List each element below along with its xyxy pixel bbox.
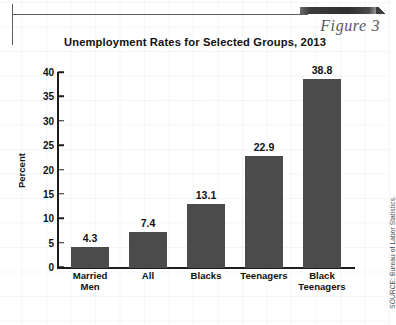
y-tick-label: 5 xyxy=(28,237,54,248)
y-tick-label: 25 xyxy=(28,140,54,151)
figure-label: Figure 3 xyxy=(320,17,380,35)
x-category-label-line: Married xyxy=(73,270,108,281)
bar-group[interactable]: 22.9Teenagers xyxy=(235,60,293,268)
bar-value-label: 38.8 xyxy=(293,64,351,76)
y-axis-tick-labels: 0510152025303540 xyxy=(26,60,54,275)
x-category-label-line: Teenagers xyxy=(298,281,345,292)
x-category-label: BlackTeenagers xyxy=(293,271,351,292)
bar[interactable] xyxy=(245,156,283,268)
source-note: SOURCE: Bureau of Labor Statistics. xyxy=(389,196,396,309)
bar-value-label: 7.4 xyxy=(119,217,177,229)
y-tick-label: 35 xyxy=(28,91,54,102)
x-category-label-line: Black xyxy=(309,270,335,281)
chart-plot-area: Percent 0510152025303540 4.3MarriedMen7.… xyxy=(0,60,390,325)
x-category-label-line: All xyxy=(142,270,154,281)
bar-group[interactable]: 13.1Blacks xyxy=(177,60,235,268)
bar-value-label: 13.1 xyxy=(177,189,235,201)
y-tick-label: 10 xyxy=(28,213,54,224)
x-category-label: All xyxy=(119,271,177,282)
bar-value-label: 4.3 xyxy=(61,232,119,244)
y-tick-label: 0 xyxy=(28,262,54,273)
decorative-horizontal-rule xyxy=(12,14,308,15)
bar-value-label: 22.9 xyxy=(235,141,293,153)
bar-group[interactable]: 4.3MarriedMen xyxy=(61,60,119,268)
x-category-label-line: Men xyxy=(80,281,99,292)
bar-group[interactable]: 38.8BlackTeenagers xyxy=(293,60,351,268)
bar-group[interactable]: 7.4All xyxy=(119,60,177,268)
x-category-label-line: Blacks xyxy=(191,270,222,281)
y-tick-label: 20 xyxy=(28,164,54,175)
y-tick-label: 30 xyxy=(28,115,54,126)
chart-title: Unemployment Rates for Selected Groups, … xyxy=(0,36,390,48)
bar-series: 4.3MarriedMen7.4All13.1Blacks22.9Teenage… xyxy=(57,60,355,268)
y-tick-label: 40 xyxy=(28,67,54,78)
bar[interactable] xyxy=(129,232,167,268)
bar[interactable] xyxy=(303,79,341,268)
x-category-label: Teenagers xyxy=(235,271,293,282)
x-category-label: MarriedMen xyxy=(61,271,119,292)
decorative-header-band xyxy=(300,7,388,14)
y-tick-label: 15 xyxy=(28,188,54,199)
bar[interactable] xyxy=(71,247,109,268)
x-category-label-line: Teenagers xyxy=(240,270,287,281)
bar[interactable] xyxy=(187,204,225,268)
x-category-label: Blacks xyxy=(177,271,235,282)
